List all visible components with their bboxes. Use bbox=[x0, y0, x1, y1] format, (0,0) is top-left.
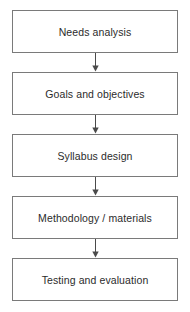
flowchart-node-goals-and-objectives: Goals and objectives bbox=[12, 72, 178, 115]
flowchart-node-syllabus-design: Syllabus design bbox=[12, 134, 178, 177]
flowchart-node-label: Needs analysis bbox=[59, 26, 132, 38]
flowchart-node-label: Testing and evaluation bbox=[42, 274, 149, 286]
flowchart-node-label: Methodology / materials bbox=[38, 212, 152, 224]
flowchart-connector-2 bbox=[12, 115, 178, 134]
flowchart-node-label: Syllabus design bbox=[57, 150, 132, 162]
flowchart-node-label: Goals and objectives bbox=[45, 88, 144, 100]
arrow-down-icon bbox=[91, 177, 100, 196]
arrow-down-icon bbox=[91, 53, 100, 72]
flowchart-node-needs-analysis: Needs analysis bbox=[12, 10, 178, 53]
arrow-down-icon bbox=[91, 239, 100, 258]
flowchart-connector-3 bbox=[12, 177, 178, 196]
flowchart-diagram: Needs analysis Goals and objectives Syll… bbox=[0, 0, 190, 312]
flowchart-connector-4 bbox=[12, 239, 178, 258]
flowchart-node-methodology-materials: Methodology / materials bbox=[12, 196, 178, 239]
arrow-down-icon bbox=[91, 115, 100, 134]
flowchart-node-testing-and-evaluation: Testing and evaluation bbox=[12, 258, 178, 301]
flowchart-connector-1 bbox=[12, 53, 178, 72]
